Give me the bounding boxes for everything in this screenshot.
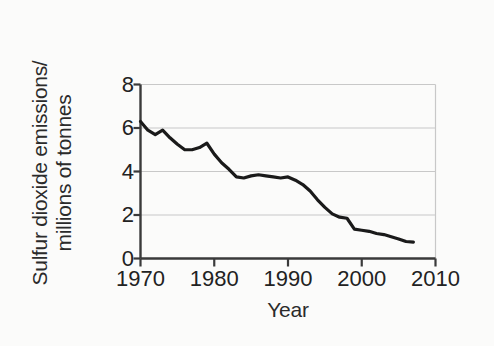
chart-figure: 02468 19701980199020002010 Sulfur dioxid…	[0, 0, 494, 346]
x-tick-label-1990: 1990	[264, 268, 313, 290]
y-tick-label-2: 2	[108, 204, 134, 226]
x-axis-title: Year	[140, 298, 436, 322]
x-tick-label-1980: 1980	[190, 268, 239, 290]
x-tick-label-2010: 2010	[411, 268, 460, 290]
data-series-line	[141, 121, 414, 242]
y-tick-label-8: 8	[108, 74, 134, 96]
y-tick-label-4: 4	[108, 161, 134, 183]
y-tick-label-6: 6	[108, 117, 134, 139]
gridlines	[141, 85, 436, 259]
x-tick-label-1970: 1970	[116, 268, 165, 290]
x-tick-label-2000: 2000	[337, 268, 386, 290]
x-axis-tick-labels: 19701980199020002010	[0, 262, 494, 302]
tick-marks	[134, 85, 436, 267]
